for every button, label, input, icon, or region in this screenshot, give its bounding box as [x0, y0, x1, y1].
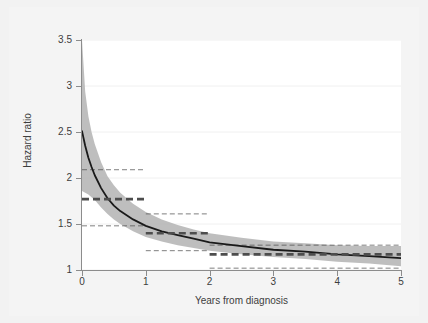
plot-area — [82, 40, 401, 270]
x-tick-label: 2 — [195, 277, 225, 287]
x-tick-label: 3 — [258, 277, 288, 287]
y-axis-line — [81, 39, 82, 271]
figure-canvas: 11.522.533.5 012345 Years from diagnosis… — [9, 7, 419, 316]
confidence-band — [82, 40, 401, 266]
y-tick-mark — [76, 132, 81, 133]
plot-svg — [82, 40, 401, 270]
x-tick-label: 5 — [386, 277, 416, 287]
y-tick-label: 1 — [22, 265, 72, 275]
x-axis-label: Years from diagnosis — [82, 295, 401, 306]
x-tick-label: 4 — [322, 277, 352, 287]
y-tick-mark — [76, 40, 81, 41]
y-tick-label: 3.5 — [22, 35, 72, 45]
x-axis-line — [81, 270, 402, 271]
y-tick-mark — [76, 224, 81, 225]
x-tick-label: 1 — [131, 277, 161, 287]
y-tick-label: 1.5 — [22, 219, 72, 229]
y-tick-mark — [76, 178, 81, 179]
gridlines-group — [82, 40, 401, 270]
x-tick-label: 0 — [67, 277, 97, 287]
confidence-band-area — [82, 40, 401, 266]
y-axis-label: Hazard ratio — [22, 81, 33, 201]
hazard-ratio-figure: 11.522.533.5 012345 Years from diagnosis… — [0, 0, 428, 323]
y-tick-mark — [76, 270, 81, 271]
y-tick-mark — [76, 86, 81, 87]
